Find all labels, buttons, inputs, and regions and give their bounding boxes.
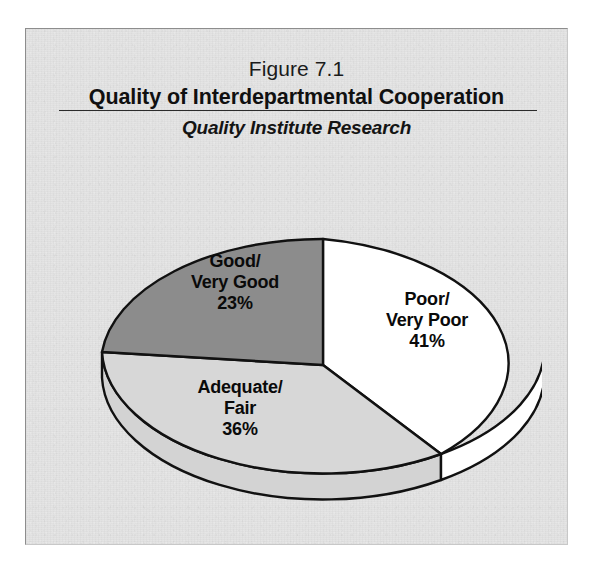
chart-title: Quality of Interdepartmental Cooperation xyxy=(26,83,567,111)
slice-label-good-very-good: Good/ Very Good 23% xyxy=(160,251,310,314)
chart-header: Figure 7.1 Quality of Interdepartmental … xyxy=(26,55,567,111)
slice-label-adequate-fair: Adequate/ Fair 36% xyxy=(160,377,320,440)
slice-label-poor-very-poor: Poor/ Very Poor 41% xyxy=(352,289,502,352)
pie-chart: Good/ Very Good 23% Poor/ Very Poor 41% … xyxy=(52,185,542,515)
chart-subtitle: Quality Institute Research xyxy=(26,117,567,139)
figure-number: Figure 7.1 xyxy=(26,55,567,82)
figure-frame: Figure 7.1 Quality of Interdepartmental … xyxy=(25,28,568,545)
title-divider xyxy=(59,110,537,111)
